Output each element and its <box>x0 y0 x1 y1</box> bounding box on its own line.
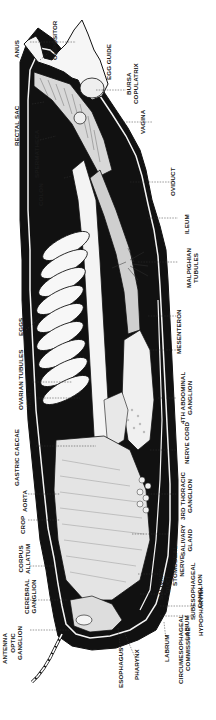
label-nerve-cord: NERVE CORD <box>184 422 191 464</box>
label-gastric-caecae: GASTRIC CAECAE <box>14 429 21 486</box>
label-circumesophageal-commissure: CIRCUMESOPHAGEAL COMMISSURE <box>178 614 191 684</box>
label-malpighian-tubules: MALPIGHIAN TUBULES <box>186 248 199 288</box>
label-ovipositor: OVIPOSITOR <box>52 21 59 60</box>
label-bursa-copulatrix: BURSA COPULATRIX <box>126 63 139 104</box>
label-aorta: AORTA <box>22 490 29 512</box>
label-corpus-allatum: CORPUS ALLATUM <box>18 544 31 574</box>
label-ovarian-tubules: OVARIAN TUBULES <box>18 349 25 410</box>
label-crop: CROP <box>20 516 27 534</box>
label-heart: HEART <box>26 388 33 410</box>
label-spermatheca: SPERMATHECA <box>34 130 41 178</box>
label-antenna: ANTENNA <box>2 633 9 664</box>
label-ileum: ILEUM <box>184 214 191 234</box>
label-cerebral-ganglion: CEREBRAL GANGLION <box>24 579 37 614</box>
label-egg-guide: EGG GUIDE <box>106 44 113 80</box>
label-eggs: EGGS <box>18 318 25 336</box>
label-labrum: LABRUM <box>164 635 171 662</box>
label-esophagus: ESOPHAGUS <box>118 648 125 688</box>
label-salivary-duct: SALIVARY DUCT <box>158 569 171 600</box>
label-optic-ganglion: OPTIC GANGLION <box>10 626 23 660</box>
label-3rd-thoracic-ganglion: 3RD THORACIC GANGLION <box>180 472 193 520</box>
label-pharynx: PHARYNX <box>134 649 141 680</box>
label-stomodeal-nerve: STOMODEAL NERVE <box>172 546 185 586</box>
label-oviduct: OVIDUCT <box>170 167 177 196</box>
label-colon: COLON <box>38 183 45 206</box>
label-hypopharynx: HYPOPHARYNX <box>198 587 205 636</box>
label-vagina: VAGINA <box>140 110 147 134</box>
label-mesenteron: MESENTERON <box>176 309 183 354</box>
label-rectal-sac: RECTAL SAC <box>14 106 21 146</box>
grasshopper-anatomy-diagram: ANUS OVIPOSITOR EGG GUIDE BURSA COPULATR… <box>0 0 216 720</box>
label-4th-abdominal-ganglion: 4TH ABDOMINAL GANGLION <box>180 372 193 424</box>
label-anus: ANUS <box>14 40 21 58</box>
